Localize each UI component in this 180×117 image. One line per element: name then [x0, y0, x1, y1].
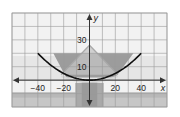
y-tick-label: 30	[77, 35, 87, 45]
x-axis-label: x	[160, 83, 166, 93]
x-tick-label: 20	[111, 83, 121, 93]
x-tick-label: −40	[31, 83, 46, 93]
x-tick-label: −20	[56, 83, 71, 93]
parabola-chart: −40−2020401030xy	[0, 0, 180, 117]
y-tick-label: 10	[77, 62, 87, 72]
x-tick-label: 40	[136, 83, 146, 93]
y-axis-label: y	[93, 13, 99, 23]
